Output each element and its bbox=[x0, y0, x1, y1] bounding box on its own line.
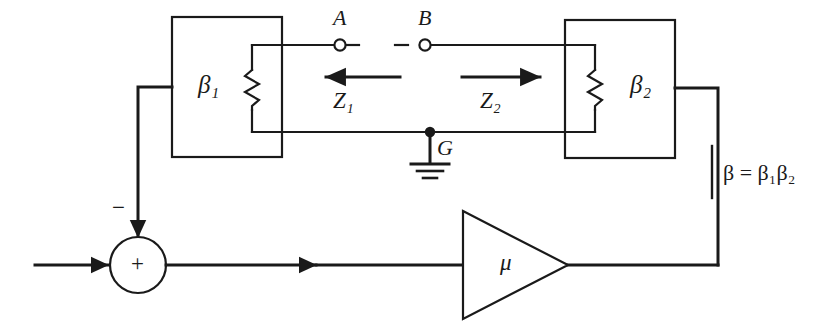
beta2-label: β₂ bbox=[630, 72, 651, 97]
beta1-resistor-zigzag bbox=[245, 70, 259, 110]
beta2-block-box bbox=[565, 20, 675, 158]
ground-label: G bbox=[437, 137, 453, 159]
terminal-a-node bbox=[334, 39, 345, 50]
left-feedback-path bbox=[138, 87, 172, 237]
beta1-resistor-bottom-lead bbox=[252, 110, 282, 132]
terminal-b-label: B bbox=[418, 7, 431, 29]
beta2-resistor-bottom-lead bbox=[565, 110, 595, 132]
diagram-vector-layer bbox=[0, 0, 835, 327]
terminal-b-node bbox=[419, 39, 430, 50]
circuit-diagram-canvas: β₁ β₂ A B G Z₁ Z₂ μ + − β = β₁β₂ bbox=[0, 0, 835, 327]
beta1-resistor-top-lead bbox=[252, 45, 282, 70]
amplifier-triangle bbox=[463, 211, 568, 319]
beta-product-equation: β = β₁β₂ bbox=[723, 162, 795, 184]
summing-junction-plus-label: + bbox=[131, 252, 144, 275]
beta2-resistor-top-lead bbox=[565, 45, 595, 70]
summing-junction-minus-label: − bbox=[112, 196, 125, 219]
terminal-a-label: A bbox=[333, 7, 346, 29]
beta1-label: β₁ bbox=[198, 72, 219, 97]
amplifier-gain-label: μ bbox=[500, 251, 512, 274]
beta1-block-box bbox=[172, 17, 282, 157]
z2-label: Z₂ bbox=[480, 89, 501, 112]
z1-label: Z₁ bbox=[333, 89, 354, 112]
beta2-resistor-zigzag bbox=[588, 70, 602, 110]
